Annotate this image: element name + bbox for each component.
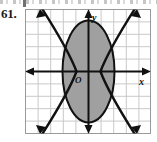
scan-artifact-strip: [0, 0, 157, 4]
problem-number-label: 61.: [1, 6, 16, 22]
figure-root: 61.: [0, 0, 157, 142]
origin-label: O: [75, 75, 82, 85]
coordinate-plot-svg: y x O: [25, 9, 151, 134]
scan-artifact-tick: [23, 0, 26, 7]
x-axis-label: x: [138, 76, 144, 87]
y-axis-label: y: [91, 12, 97, 23]
coordinate-plot: y x O: [25, 9, 151, 134]
